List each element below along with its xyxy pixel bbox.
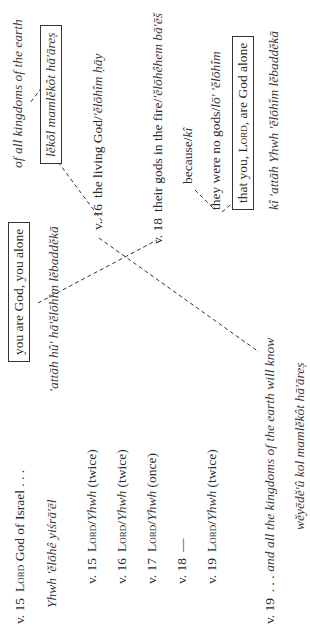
rotated-page: v. 15Lord God of Israel . . . you are Go… (0, 0, 310, 630)
translit-you-are-god: 'attāh hû' hā'ĕlōhîm lĕbaddĕkā (46, 226, 62, 392)
footer-translit: wĕyēdĕ'û kol mamlĕkôt hā'āreṣ (292, 362, 308, 530)
connector-living-god-to-kingdoms-know (99, 238, 259, 352)
v18-gods-in-fire: v. 18their gods in the fire/'ĕlōhêhem bā… (150, 13, 166, 244)
verse-item-v18: v. 18— (174, 538, 190, 584)
header-translit: Yhwh 'ĕlōhê yiśrā'ēl (44, 499, 60, 608)
verse-item-v15: v. 15Lord/Yhwh (twice) (84, 449, 100, 584)
conclusion-translit: kî 'attāh Yhwh 'ĕlōhîm lĕbaddĕkā (266, 31, 282, 210)
boxed-conclusion: that you, Lord, are God alone (232, 36, 254, 210)
no-gods: they were no gods/lō' 'ĕlōhîm (208, 51, 224, 210)
footer-v19: v. 19. . . and all the kingdoms of the e… (262, 338, 278, 624)
verse-item-v17: v. 17Lord/Yhwh (once) (144, 453, 160, 584)
verse-item-v19: v. 19Lord/Yhwh (twice) (204, 449, 220, 584)
boxed-you-are-god: you are God, you alone (8, 222, 30, 362)
because-ki: because/kî (180, 128, 196, 184)
header-v15: v. 15Lord God of Israel . . . (12, 470, 28, 624)
v16-living-god: v. 16the living God/'ĕlōhîm ḥāy (90, 54, 106, 230)
phrase-of-all-kingdoms: of all kingdoms of the earth (10, 19, 26, 168)
verse-item-v16: v. 16Lord/Yhwh (twice) (114, 449, 130, 584)
boxed-lekol-mamlekot: lĕkōl mamlĕkôt hā'āreṣ (40, 25, 62, 164)
